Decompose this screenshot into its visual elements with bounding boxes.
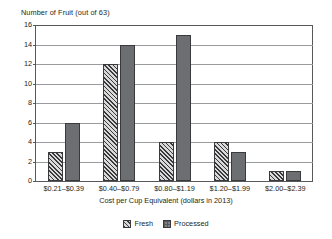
gridline	[36, 103, 313, 104]
y-tick-mark	[33, 45, 36, 46]
gridline	[36, 84, 313, 85]
y-tick-label: 10	[24, 80, 32, 87]
gridline	[36, 64, 313, 65]
bar-processed-4	[231, 152, 246, 181]
legend-item-fresh[interactable]: Fresh	[123, 220, 153, 228]
y-tick-mark	[33, 123, 36, 124]
x-axis-title: Cost per Cup Equivalent (dollars in 2013…	[0, 196, 332, 205]
y-tick-label: 2	[28, 158, 32, 165]
x-tick-label: $0.80–$1.19	[154, 185, 195, 192]
bar-chart-figure: Number of Fruit (out of 63) 024681012141…	[0, 0, 332, 239]
y-tick-label: 16	[24, 21, 32, 28]
bar-processed-1	[65, 123, 80, 182]
bar-fresh-3	[159, 142, 174, 181]
y-tick-mark	[33, 181, 36, 182]
bar-fresh-5	[269, 171, 284, 181]
y-tick-label: 14	[24, 41, 32, 48]
y-tick-label: 0	[28, 177, 32, 184]
bar-processed-3	[176, 35, 191, 181]
y-tick-mark	[33, 142, 36, 143]
x-tick-label: $1.20–$1.99	[210, 185, 251, 192]
plot-area: 0246810121416 $0.21–$0.39$0.40–$0.79$0.8…	[35, 25, 313, 182]
bar-fresh-1	[48, 152, 63, 181]
gridline	[36, 45, 313, 46]
bar-processed-2	[120, 45, 135, 182]
x-tick-label: $0.40–$0.79	[99, 185, 140, 192]
bar-fresh-4	[214, 142, 229, 181]
x-tick-label: $0.21–$0.39	[43, 185, 84, 192]
y-tick-mark	[33, 103, 36, 104]
legend-swatch-processed-icon	[163, 220, 171, 228]
y-tick-label: 6	[28, 119, 32, 126]
y-tick-mark	[33, 84, 36, 85]
legend-swatch-fresh-icon	[123, 220, 131, 228]
y-tick-label: 12	[24, 60, 32, 67]
legend-label: Fresh	[134, 220, 153, 227]
plot-frame-top	[36, 25, 313, 26]
y-tick-label: 8	[28, 99, 32, 106]
x-tick-label: $2.00–$2.39	[265, 185, 306, 192]
y-tick-mark	[33, 162, 36, 163]
chart-legend: FreshProcessed	[0, 220, 332, 228]
y-axis-title: Number of Fruit (out of 63)	[21, 8, 110, 17]
bar-fresh-2	[103, 64, 118, 181]
legend-label: Processed	[174, 220, 208, 227]
bar-processed-5	[286, 171, 301, 181]
legend-item-processed[interactable]: Processed	[163, 220, 208, 228]
y-tick-label: 4	[28, 138, 32, 145]
y-tick-mark	[33, 64, 36, 65]
y-tick-mark	[33, 25, 36, 26]
